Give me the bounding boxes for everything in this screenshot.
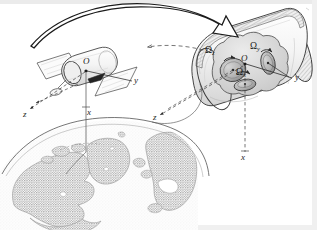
satellite-origin-label: O: [83, 57, 90, 66]
cutaway-origin-label: O: [241, 54, 248, 63]
cutaway-axis-y-label: y: [295, 73, 299, 82]
satellite-axis-x-label: x: [87, 108, 91, 117]
wheel-x-omega-label: Ωx: [236, 68, 246, 79]
satellite-momentum-wheel-diagram: [0, 0, 317, 230]
satellite-axis-y-label: y: [134, 76, 138, 85]
wheel-y-omega-symbol: Ω: [250, 41, 257, 51]
satellite-axis-z-label: z: [23, 110, 27, 119]
page-top-edge: [0, 0, 317, 4]
cutaway-axis-x-label: x: [241, 153, 245, 162]
wheel-z-omega-subscript: z: [212, 49, 215, 56]
wheel-x-omega-subscript: x: [243, 71, 246, 78]
wheel-z-omega-label: Ωz: [205, 46, 215, 57]
wheel-y-omega-label: Ωy: [250, 42, 260, 53]
wheel-z-omega-symbol: Ω: [205, 45, 212, 55]
page-right-edge: [312, 0, 317, 230]
wheel-y-omega-subscript: y: [257, 45, 260, 52]
cutaway-axis-z-label: z: [153, 113, 157, 122]
wheel-x-omega-symbol: Ω: [236, 67, 243, 77]
